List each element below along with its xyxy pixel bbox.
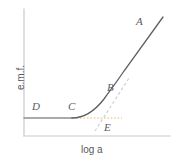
curve-label-c: C	[68, 101, 75, 112]
curve-label-d: D	[32, 101, 40, 112]
figure-container: e.m.f. log a A B C D E	[0, 0, 176, 162]
x-axis-title: log a	[81, 145, 103, 155]
response-curve-rising	[72, 17, 163, 118]
y-axis-title: e.m.f.	[16, 65, 26, 90]
curve-label-e: E	[104, 122, 111, 133]
curve-label-a: A	[136, 16, 143, 27]
plot-canvas	[0, 0, 176, 162]
curve-label-b: B	[107, 82, 114, 93]
